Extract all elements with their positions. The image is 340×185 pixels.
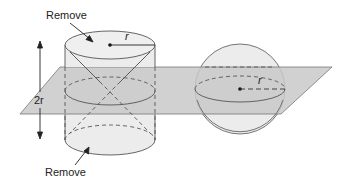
remove-bottom-label: Remove	[45, 166, 86, 178]
height-label: 2r	[34, 94, 44, 106]
cavalieri-diagram: Remove Remove 2r r r	[0, 0, 340, 185]
remove-top-label: Remove	[46, 9, 87, 21]
